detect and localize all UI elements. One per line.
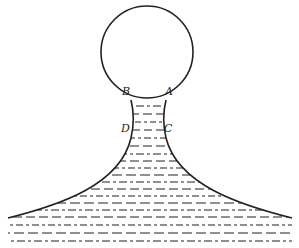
label-b: B [121, 85, 130, 98]
sphere-liquid-diagram: B A D C [0, 0, 299, 248]
label-d: D [120, 122, 130, 135]
label-c: C [164, 122, 173, 135]
sphere [101, 6, 193, 98]
left-meniscus-curve [8, 100, 133, 218]
liquid-hatching [0, 106, 299, 241]
label-a: A [164, 85, 173, 98]
right-meniscus-curve [164, 100, 292, 218]
